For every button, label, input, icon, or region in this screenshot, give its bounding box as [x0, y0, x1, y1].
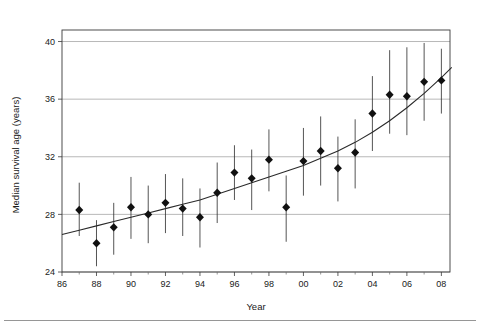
x-tick-label-92: 92: [160, 279, 170, 289]
y-tick-label-24: 24: [45, 267, 55, 277]
chart-figure: 868890929496980002040608 2428323640 Year…: [0, 0, 480, 326]
x-tick-label-00: 00: [298, 279, 308, 289]
x-tick-label-94: 94: [195, 279, 205, 289]
y-tick-label-32: 32: [45, 152, 55, 162]
x-tick-label-02: 02: [333, 279, 343, 289]
x-tick-label-90: 90: [126, 279, 136, 289]
y-tick-label-28: 28: [45, 210, 55, 220]
x-tick-label-06: 06: [402, 279, 412, 289]
x-tick-label-98: 98: [264, 279, 274, 289]
chart-background: [0, 0, 480, 326]
scatter-plot-with-error-bars: 868890929496980002040608 2428323640 Year…: [0, 0, 480, 326]
x-tick-label-04: 04: [367, 279, 377, 289]
y-tick-label-36: 36: [45, 94, 55, 104]
x-tick-label-96: 96: [229, 279, 239, 289]
x-tick-label-88: 88: [91, 279, 101, 289]
y-axis-title: Median survival age (years): [10, 97, 21, 214]
x-tick-label-08: 08: [436, 279, 446, 289]
x-axis-title: Year: [246, 301, 265, 312]
y-tick-label-40: 40: [45, 37, 55, 47]
x-tick-label-86: 86: [57, 279, 67, 289]
